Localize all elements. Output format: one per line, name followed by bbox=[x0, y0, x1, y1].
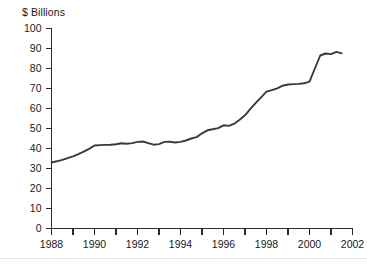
x-tick-label: 1994 bbox=[169, 238, 193, 250]
y-tick-label: 80 bbox=[30, 62, 42, 74]
y-tick-label: 30 bbox=[30, 162, 42, 174]
y-tick-label: 40 bbox=[30, 142, 42, 154]
y-axis-tick-labels: 0102030405060708090100 bbox=[24, 22, 42, 234]
chart-axes bbox=[52, 29, 353, 229]
y-tick-label: 0 bbox=[36, 222, 42, 234]
chart-plot-area: 0102030405060708090100 19881990199219941… bbox=[0, 0, 367, 264]
y-tick-label: 100 bbox=[24, 22, 42, 34]
y-tick-label: 10 bbox=[30, 202, 42, 214]
x-tick-label: 1990 bbox=[83, 238, 107, 250]
x-axis-tick-marks bbox=[52, 229, 353, 235]
x-tick-label: 1996 bbox=[212, 238, 236, 250]
y-tick-label: 90 bbox=[30, 42, 42, 54]
y-tick-label: 20 bbox=[30, 182, 42, 194]
x-tick-label: 1992 bbox=[126, 238, 150, 250]
y-tick-label: 60 bbox=[30, 102, 42, 114]
y-tick-label: 50 bbox=[30, 122, 42, 134]
x-tick-label: 2000 bbox=[298, 238, 322, 250]
x-tick-label: 2002 bbox=[341, 238, 365, 250]
data-series-line bbox=[52, 52, 342, 163]
y-axis-tick-marks bbox=[46, 29, 52, 229]
y-tick-label: 70 bbox=[30, 82, 42, 94]
x-tick-label: 1988 bbox=[40, 238, 64, 250]
x-tick-label: 1998 bbox=[255, 238, 279, 250]
x-axis-tick-labels: 19881990199219941996199820002002 bbox=[40, 238, 365, 250]
line-chart-figure: $ Billions 0102030405060708090100 198819… bbox=[0, 0, 367, 264]
figure-bottom-edge bbox=[0, 258, 367, 264]
